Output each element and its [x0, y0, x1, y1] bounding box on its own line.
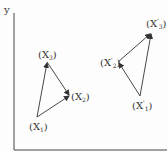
original-triangle: (X3) (X2) (X1) [29, 49, 90, 133]
label-x1-prime: (X'1) [132, 99, 153, 112]
edge-x1-x3 [37, 63, 47, 117]
diagram-svg: y (X3) (X2) (X1) (X'3) (X'2) (X'1) [0, 0, 167, 153]
label-x3: (X3) [38, 49, 57, 61]
transformed-triangle: (X'3) (X'2) (X'1) [100, 17, 167, 112]
label-x2: (X2) [71, 91, 90, 103]
y-axis-label: y [3, 4, 10, 15]
edge-x1p-x2p [119, 63, 140, 96]
edge-x2p-x3p [118, 34, 150, 62]
edge-x1p-x3p [140, 34, 151, 96]
edge-x3-x2 [47, 62, 69, 95]
diagram-canvas: y (X3) (X2) (X1) (X'3) (X'2) (X'1) [0, 0, 167, 153]
label-x2-prime: (X'2) [100, 56, 121, 69]
label-x1: (X1) [29, 121, 48, 133]
edge-x1-x2 [37, 96, 69, 117]
label-x3-prime: (X'3) [146, 17, 167, 30]
axes: y [3, 4, 167, 150]
